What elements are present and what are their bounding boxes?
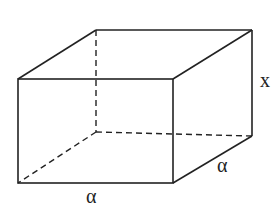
width-label: α — [86, 185, 97, 207]
top-right-edge — [173, 30, 252, 79]
hidden-back-bottom-edge — [96, 132, 252, 136]
top-left-edge — [18, 30, 96, 79]
depth-label: α — [217, 154, 228, 176]
hidden-left-bottom-edge — [18, 132, 96, 183]
box-diagram: x α α — [0, 0, 275, 220]
height-label: x — [260, 69, 270, 91]
bottom-right-edge — [173, 136, 252, 183]
